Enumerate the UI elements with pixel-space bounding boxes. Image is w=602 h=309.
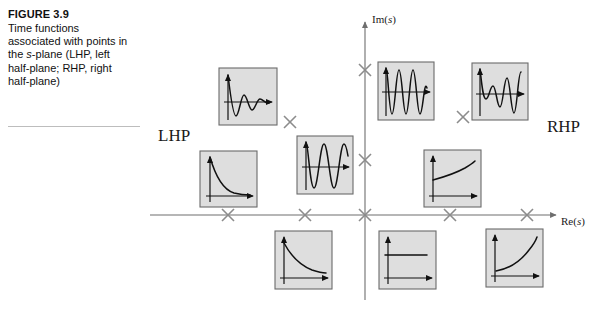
box-sustained-sinusoid-upper (378, 62, 434, 120)
s-plane-diagram (0, 0, 602, 309)
box-growing-oscillation (472, 63, 528, 120)
box-exponential-decay-slow (275, 231, 332, 289)
box-sustained-sinusoid-lower (297, 136, 353, 194)
box-exponential-growth-fast (486, 229, 543, 287)
box-damped-oscillation (219, 68, 277, 125)
figure-3-9: FIGURE 3.9 Time functions associated wit… (0, 0, 602, 309)
pole-rhp-complex-upper (457, 111, 469, 123)
pole-lhp-complex-upper (284, 116, 296, 128)
box-exponential-decay-fast (200, 151, 257, 207)
box-exponential-growth-slow (424, 150, 481, 207)
box-constant-step (379, 231, 436, 289)
